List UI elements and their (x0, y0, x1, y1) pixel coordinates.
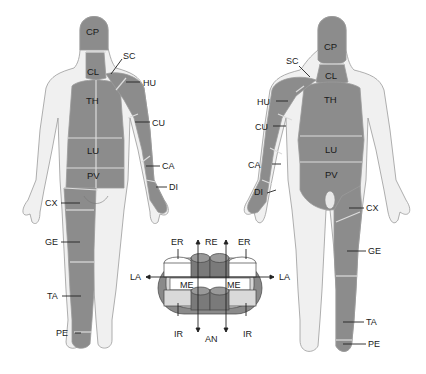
anterior-leg (334, 186, 362, 351)
anterior-label-th: TH (324, 95, 337, 105)
ring-label-ir-left: IR (174, 329, 183, 339)
ring-label-ir-right: IR (243, 329, 252, 339)
posterior-callout-cu: CU (152, 118, 165, 128)
ring-label-er-right: ER (238, 237, 251, 247)
posterior-label-cl: CL (87, 67, 99, 77)
ring-label-me-left: ME (180, 280, 194, 290)
ring-label-la-left: LA (130, 272, 141, 282)
posterior-callout-ta: TA (47, 291, 58, 301)
anterior-callout-ge: GE (368, 246, 381, 256)
anterior-callout-ca: CA (248, 160, 261, 170)
posterior-callout-di: DI (169, 182, 178, 192)
posterior-label-th: TH (86, 96, 99, 106)
anterior-callout-di: DI (254, 187, 263, 197)
ring-label-la-right: LA (279, 272, 290, 282)
posterior-callout-hu: HU (143, 78, 156, 88)
posterior-callout-ca: CA (162, 161, 175, 171)
posterior-label-lu: LU (87, 146, 99, 156)
anterior-callout-cu: CU (255, 122, 268, 132)
anterior-label-pv: PV (325, 170, 338, 180)
orientation-ring (146, 240, 274, 332)
anterior-callout-cx: CX (366, 203, 379, 213)
ring-label-me-right: ME (227, 280, 241, 290)
ring-label-er-left: ER (171, 237, 184, 247)
anterior-label-cp: CP (324, 42, 337, 52)
anterior-label-cl: CL (325, 71, 337, 81)
anterior-callout-ta: TA (366, 317, 377, 327)
posterior-callout-cx: CX (45, 198, 58, 208)
posterior-callout-ge: GE (45, 237, 58, 247)
posterior-callout-sc: SC (123, 51, 136, 61)
anterior-callout-pe: PE (368, 339, 380, 349)
anterior-callout-hu: HU (257, 97, 270, 107)
posterior-label-pv: PV (87, 171, 100, 181)
anterior-callout-sc: SC (286, 56, 299, 66)
posterior-callout-pe: PE (56, 328, 68, 338)
dermatome-diagram: CP CL TH LU PV SC HU CU CA DI CX GE TA P… (0, 0, 426, 374)
ring-label-re: RE (205, 237, 218, 247)
anterior-label-lu: LU (325, 145, 337, 155)
posterior-label-cp: CP (86, 27, 99, 37)
anterior-figure (244, 17, 410, 352)
figures-svg (0, 0, 426, 374)
ring-label-an: AN (205, 334, 218, 344)
